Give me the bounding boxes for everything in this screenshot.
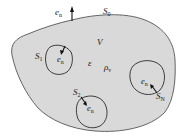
outer-surface-label: S0 <box>103 6 111 17</box>
outer-normal-arrow <box>70 6 74 21</box>
permittivity-label: ε <box>88 58 92 68</box>
outer-normal-label: en <box>55 7 62 18</box>
conductor-volume-diagram: en S0 V ε ρv en S1 en S2 en SN <box>0 0 182 140</box>
